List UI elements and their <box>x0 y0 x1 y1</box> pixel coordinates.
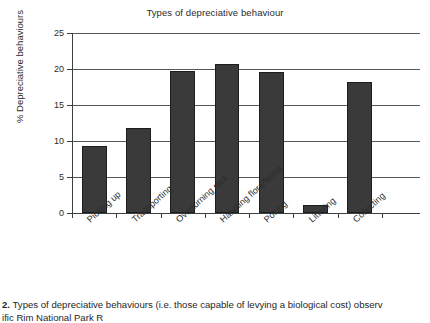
y-axis-tick-label: 15 <box>38 100 64 110</box>
figure-caption-line1: 2. Types of depreciative behaviours (i.e… <box>2 299 430 311</box>
x-axis-tick <box>205 213 206 218</box>
figure-caption-text: Types of depreciative behaviours (i.e. t… <box>13 299 383 310</box>
figure-number: 2. <box>2 299 10 310</box>
bar <box>259 72 284 213</box>
x-axis-tick <box>382 213 383 218</box>
y-axis-tick-label: 25 <box>38 28 64 38</box>
y-axis-tick-label: 20 <box>38 64 64 74</box>
bar <box>215 64 240 213</box>
figure-caption-line2: ific Rim National Park R <box>2 312 430 323</box>
figure-container: Types of depreciative behaviour % Deprec… <box>0 0 430 323</box>
y-axis-tick-label: 0 <box>38 208 64 218</box>
chart-title: Types of depreciative behaviour <box>0 7 430 18</box>
x-axis-tick <box>116 213 117 218</box>
x-axis-tick <box>72 213 73 218</box>
y-axis-tick-label: 5 <box>38 172 64 182</box>
x-axis-tick <box>249 213 250 218</box>
x-axis-tick <box>293 213 294 218</box>
x-axis-tick <box>161 213 162 218</box>
bars-area <box>72 33 382 213</box>
bar <box>170 71 195 213</box>
y-axis-tick-label: 10 <box>38 136 64 146</box>
y-axis-label: % Depreciative behaviours <box>14 10 25 123</box>
x-axis-tick <box>338 213 339 218</box>
bar <box>347 82 372 213</box>
